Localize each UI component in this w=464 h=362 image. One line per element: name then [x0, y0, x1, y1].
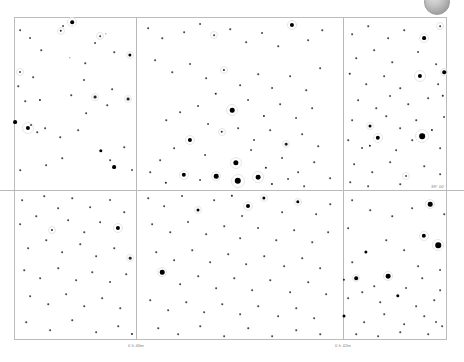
star-marker	[109, 199, 111, 201]
star-marker	[257, 227, 259, 229]
star-marker	[61, 251, 63, 253]
star-marker	[313, 161, 315, 163]
star-marker	[109, 281, 111, 283]
star-marker	[127, 98, 130, 101]
star-marker	[396, 294, 399, 297]
star-marker	[250, 149, 252, 151]
star-marker	[253, 139, 255, 141]
star-marker	[349, 181, 351, 183]
star-marker	[317, 145, 319, 147]
star-marker	[59, 136, 61, 138]
star-marker	[95, 255, 97, 257]
star-marker	[131, 333, 133, 335]
star-marker	[277, 45, 279, 47]
star-marker	[61, 157, 63, 159]
star-marker	[29, 295, 31, 297]
star-marker	[399, 331, 401, 333]
star-marker	[295, 329, 297, 331]
star-marker	[415, 119, 417, 121]
star-marker	[129, 257, 132, 260]
star-marker	[389, 161, 391, 163]
star-marker	[417, 265, 419, 267]
star-marker	[431, 129, 433, 131]
star-marker	[319, 267, 321, 269]
star-marker	[35, 215, 37, 217]
star-marker	[229, 28, 231, 30]
star-marker	[411, 207, 413, 209]
star-marker	[385, 115, 387, 117]
star-marker	[47, 303, 49, 305]
star-marker	[223, 225, 225, 227]
star-marker	[439, 269, 441, 271]
star-marker	[215, 93, 217, 95]
star-marker	[329, 177, 331, 179]
star-marker	[403, 323, 405, 325]
star-marker	[411, 139, 413, 141]
star-marker	[277, 315, 279, 317]
star-marker	[57, 207, 59, 209]
star-marker	[213, 199, 215, 201]
star-marker	[183, 31, 185, 33]
star-marker	[423, 315, 425, 317]
star-marker	[67, 219, 69, 221]
star-marker	[399, 183, 401, 185]
star-marker	[179, 283, 181, 285]
star-marker	[69, 57, 70, 58]
star-marker	[13, 120, 17, 124]
star-marker	[246, 204, 250, 208]
star-marker	[239, 84, 241, 86]
star-marker	[354, 276, 358, 280]
star-marker	[71, 197, 73, 199]
star-marker	[23, 269, 25, 271]
star-marker	[351, 33, 353, 35]
star-marker	[167, 309, 169, 311]
star-marker	[271, 183, 273, 185]
star-marker	[355, 57, 357, 59]
star-marker	[189, 63, 191, 65]
star-marker	[311, 241, 313, 243]
star-marker	[275, 239, 277, 241]
star-marker	[251, 289, 253, 291]
star-marker	[279, 103, 281, 105]
star-marker	[289, 75, 291, 77]
star-marker	[62, 25, 64, 27]
ra-tick-label-0: 0 h 46m	[128, 343, 144, 348]
star-marker	[123, 146, 125, 148]
star-marker	[71, 319, 73, 321]
star-marker	[83, 305, 85, 307]
star-marker	[435, 242, 441, 248]
star-marker	[27, 247, 29, 249]
star-marker	[405, 175, 407, 177]
star-marker	[199, 325, 201, 327]
star-marker	[391, 61, 393, 63]
star-marker	[215, 287, 217, 289]
star-marker	[149, 299, 151, 301]
star-marker	[371, 171, 373, 173]
star-marker	[159, 159, 161, 161]
star-marker	[154, 59, 156, 61]
star-marker	[419, 133, 425, 139]
star-marker	[83, 231, 85, 233]
star-marker	[245, 41, 247, 43]
star-marker	[112, 165, 116, 169]
star-marker	[171, 71, 173, 73]
star-marker	[271, 87, 273, 89]
star-marker	[149, 171, 151, 173]
star-marker	[101, 297, 103, 299]
star-marker	[435, 321, 437, 323]
star-marker	[43, 195, 45, 197]
gridline-ra-0	[136, 17, 137, 340]
star-marker	[169, 231, 171, 233]
star-marker	[197, 105, 199, 107]
star-marker	[94, 42, 96, 44]
star-marker	[157, 327, 159, 329]
star-marker	[385, 239, 387, 241]
star-marker	[230, 108, 235, 113]
star-marker	[119, 307, 121, 309]
star-marker	[375, 107, 377, 109]
ra-tick-label-1: 0 h 42m	[335, 343, 351, 348]
star-marker	[213, 34, 215, 36]
star-marker	[307, 39, 309, 41]
star-marker	[19, 71, 21, 73]
star-marker	[70, 94, 72, 96]
